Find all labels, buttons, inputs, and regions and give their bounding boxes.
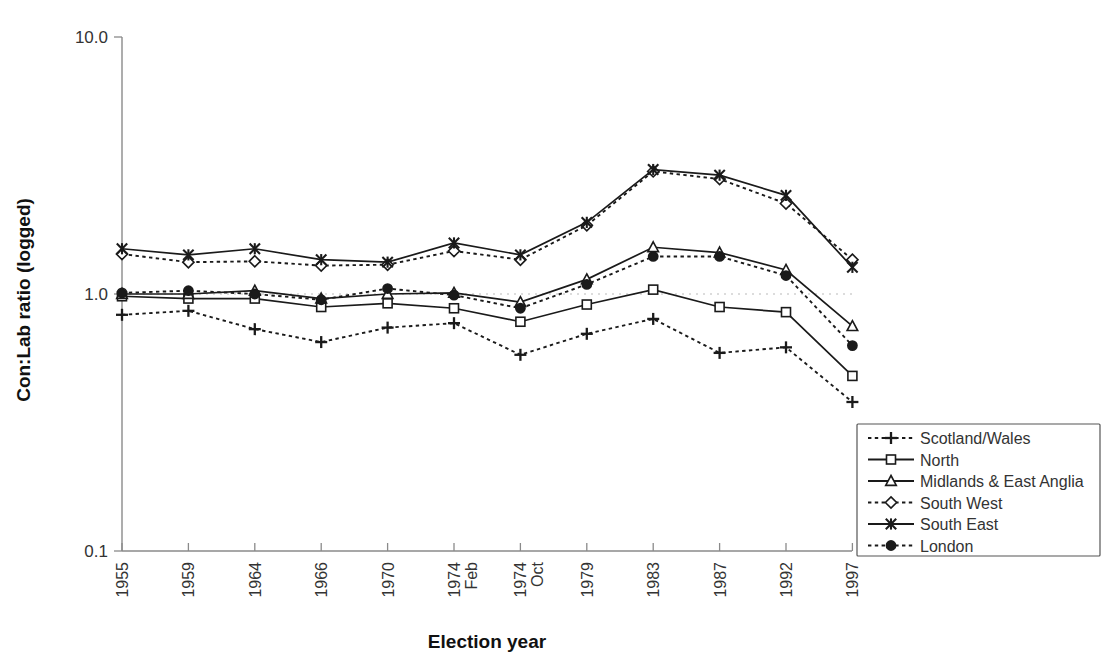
legend-5-marker bbox=[886, 541, 895, 550]
series-1-point-marker bbox=[383, 299, 392, 308]
series-line bbox=[122, 170, 852, 268]
series-1-point-marker bbox=[582, 300, 591, 309]
series-0-point-marker bbox=[714, 347, 726, 359]
x-axis-title: Election year bbox=[428, 631, 547, 652]
series-0-point-marker bbox=[116, 309, 128, 321]
legend-label: London bbox=[920, 538, 973, 555]
data-series-group bbox=[116, 164, 858, 408]
chart-container: Con:Lab ratio (logged) 10.01.00.1 195519… bbox=[0, 0, 1116, 660]
x-tick-label-line: 1992 bbox=[778, 562, 795, 598]
y-tick-label: 0.1 bbox=[84, 542, 108, 561]
series-5-point-marker bbox=[184, 286, 193, 295]
x-tick-label-line: 1955 bbox=[114, 562, 131, 598]
series-5-point-marker bbox=[582, 280, 591, 289]
series-0-point-marker bbox=[182, 305, 194, 317]
series-1-point-marker bbox=[516, 317, 525, 326]
series-line bbox=[122, 256, 852, 345]
x-tick-label-line: 1970 bbox=[380, 562, 397, 598]
series-south-east bbox=[117, 164, 858, 273]
series-5-point-marker bbox=[117, 288, 126, 297]
x-tick-label: 1974Oct bbox=[512, 561, 546, 597]
series-london bbox=[117, 252, 857, 350]
series-0-point-marker bbox=[249, 323, 261, 335]
series-5-point-marker bbox=[250, 289, 259, 298]
series-0-point-marker bbox=[315, 336, 327, 348]
x-tick-label: 1966 bbox=[313, 562, 330, 598]
series-1-point-marker bbox=[715, 303, 724, 312]
chart-legend: Scotland/WalesNorthMidlands & East Angli… bbox=[857, 424, 1100, 556]
x-tick-labels: 195519591964196619701974Feb1974Oct197919… bbox=[114, 561, 861, 597]
x-tick-label: 1959 bbox=[180, 562, 197, 598]
series-1-point-marker bbox=[848, 371, 857, 380]
legend-label: Scotland/Wales bbox=[920, 430, 1031, 447]
x-tick-label-line: 1964 bbox=[247, 562, 264, 598]
series-0-point-marker bbox=[448, 317, 460, 329]
x-tick-label: 1964 bbox=[247, 562, 264, 598]
x-tick-label: 1970 bbox=[380, 562, 397, 598]
x-tick-label-line: 1959 bbox=[180, 562, 197, 598]
con-lab-ratio-line-chart: Con:Lab ratio (logged) 10.01.00.1 195519… bbox=[0, 0, 1116, 660]
y-tick-label: 1.0 bbox=[84, 285, 108, 304]
series-1-point-marker bbox=[450, 304, 459, 313]
x-tick-label-line: 1997 bbox=[844, 562, 861, 598]
x-tick-marks bbox=[122, 543, 852, 551]
x-tick-label: 1983 bbox=[645, 562, 662, 598]
y-axis-title: Con:Lab ratio (logged) bbox=[13, 198, 34, 402]
series-5-point-marker bbox=[848, 341, 857, 350]
x-tick-label-line: 1983 bbox=[645, 562, 662, 598]
series-0-point-marker bbox=[514, 349, 526, 361]
series-5-point-marker bbox=[383, 284, 392, 293]
axis-lines bbox=[114, 37, 852, 551]
x-tick-label: 1992 bbox=[778, 562, 795, 598]
series-3-point-marker bbox=[249, 256, 260, 267]
x-tick-label-line: Oct bbox=[529, 561, 546, 586]
series-0-point-marker bbox=[382, 322, 394, 334]
x-tick-label-line: 1987 bbox=[712, 562, 729, 598]
y-tick-label: 10.0 bbox=[75, 28, 108, 47]
series-1-point-marker bbox=[649, 285, 658, 294]
x-tick-label: 1955 bbox=[114, 562, 131, 598]
series-north bbox=[118, 285, 857, 380]
series-1-point-marker bbox=[782, 308, 791, 317]
series-5-point-marker bbox=[781, 271, 790, 280]
x-tick-label-line: Feb bbox=[463, 562, 480, 590]
x-tick-label-line: 1974 bbox=[446, 562, 463, 598]
y-tick-labels: 10.01.00.1 bbox=[75, 28, 108, 561]
series-0-point-marker bbox=[581, 328, 593, 340]
series-5-point-marker bbox=[516, 304, 525, 313]
legend-label: South West bbox=[920, 495, 1003, 512]
series-south-west bbox=[116, 166, 858, 271]
series-5-point-marker bbox=[715, 252, 724, 261]
series-5-point-marker bbox=[317, 295, 326, 304]
x-tick-label-line: 1974 bbox=[512, 562, 529, 598]
legend-label: North bbox=[920, 452, 959, 469]
series-line bbox=[122, 311, 852, 402]
x-tick-label: 1997 bbox=[844, 562, 861, 598]
x-tick-label-line: 1979 bbox=[579, 562, 596, 598]
x-tick-label: 1987 bbox=[712, 562, 729, 598]
legend-1-marker bbox=[887, 455, 896, 464]
x-tick-label: 1979 bbox=[579, 562, 596, 598]
legend-label: Midlands & East Anglia bbox=[920, 473, 1084, 490]
series-5-point-marker bbox=[649, 252, 658, 261]
series-0-point-marker bbox=[647, 313, 659, 325]
x-tick-label: 1974Feb bbox=[446, 562, 480, 598]
series-4-point-marker bbox=[781, 190, 791, 201]
legend-label: South East bbox=[920, 516, 999, 533]
x-tick-label-line: 1966 bbox=[313, 562, 330, 598]
series-5-point-marker bbox=[449, 291, 458, 300]
series-4-point-marker bbox=[847, 262, 857, 273]
series-scotland-wales bbox=[116, 305, 858, 408]
